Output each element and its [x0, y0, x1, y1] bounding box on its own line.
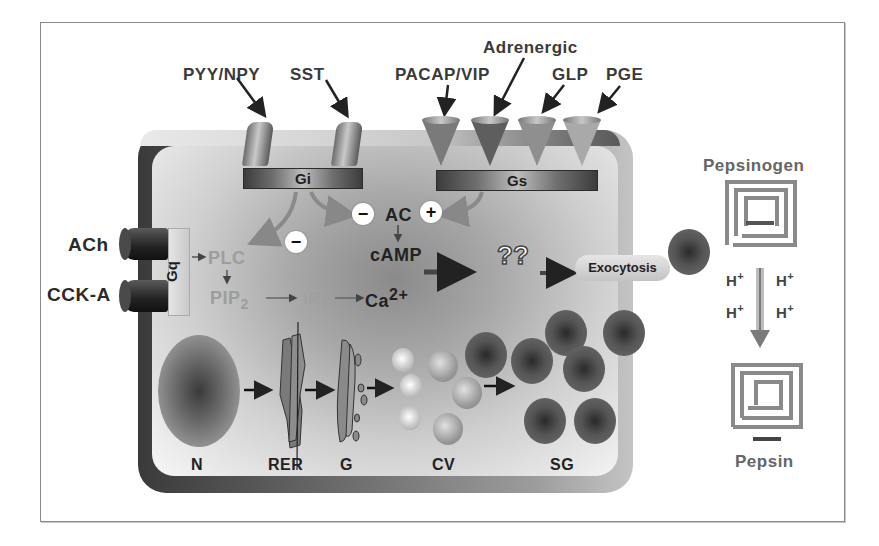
- g-protein-gs: Gs: [436, 170, 598, 191]
- g-protein-gq: Gq: [168, 228, 190, 316]
- arrow-pacap: [445, 85, 448, 110]
- calcium-label: Ca2+: [365, 286, 408, 312]
- arrow-adrenergic: [497, 58, 524, 110]
- golgi-icon: [337, 340, 367, 442]
- proton-label: H+: [776, 270, 794, 289]
- ligand-cck-a: CCK-A: [47, 284, 111, 306]
- secretory-granule-released-icon: [603, 310, 645, 356]
- unknown-mediator-label: ??: [497, 240, 529, 271]
- camp-label: cAMP: [370, 245, 422, 266]
- secretory-granule-icon: [524, 398, 566, 444]
- arrow-sst: [326, 80, 345, 112]
- minus-sign-ac-icon: −: [352, 203, 374, 225]
- proton-label: H+: [726, 270, 744, 289]
- receptor-glp-rim-icon: [518, 116, 556, 124]
- receptor-glp-icon: [518, 120, 556, 166]
- condensing-vacuole-icon: [428, 350, 458, 382]
- label-pepsin: Pepsin: [735, 452, 794, 472]
- proton-label: H+: [726, 302, 744, 321]
- secretory-granule-icon: [563, 346, 605, 392]
- arrow-pge: [602, 86, 620, 108]
- receptor-cck-icon: [124, 280, 168, 312]
- vesicle-icon: [399, 406, 421, 430]
- condensing-vacuole-icon: [433, 413, 463, 445]
- ip3-label: IP3: [303, 289, 327, 311]
- gq-label: Gq: [163, 261, 180, 282]
- arrow-glp: [546, 85, 564, 108]
- nucleus-icon: [158, 335, 240, 447]
- label-cv: CV: [432, 456, 455, 474]
- receptor-pge-rim-icon: [563, 116, 601, 124]
- exocytosis-label: Exocytosis: [575, 255, 670, 281]
- secretory-granule-released-icon: [668, 229, 710, 275]
- minus-sign-plc-icon: −: [285, 231, 307, 253]
- label-pepsinogen: Pepsinogen: [703, 156, 804, 176]
- label-golgi: G: [340, 456, 353, 474]
- condensing-vacuole-icon: [452, 377, 482, 409]
- pepsin-spiral-icon: [733, 365, 801, 427]
- proton-label: H+: [776, 302, 794, 321]
- vesicle-icon: [392, 348, 414, 372]
- secretory-granule-icon: [465, 332, 507, 378]
- pip2-label: PIP2: [210, 288, 249, 312]
- pepsin-bar-icon: [753, 437, 781, 441]
- receptor-pacap-rim-icon: [422, 116, 460, 124]
- ac-label: AC: [385, 205, 412, 226]
- secretory-granule-icon: [574, 398, 616, 444]
- receptor-adrenergic-icon: [471, 120, 509, 166]
- ligand-ach: ACh: [68, 234, 109, 256]
- receptor-pacap-icon: [422, 120, 460, 166]
- plus-sign-ac-icon: +: [420, 201, 442, 223]
- receptor-ach-icon: [124, 228, 168, 260]
- label-sg: SG: [550, 456, 574, 474]
- g-protein-gi: Gi: [243, 168, 363, 189]
- receptor-adrenergic-rim-icon: [471, 116, 509, 124]
- receptor-pge-icon: [563, 120, 601, 166]
- pepsinogen-bar-icon: [746, 221, 774, 225]
- label-nucleus: N: [191, 456, 203, 474]
- secretory-granule-icon: [511, 338, 553, 384]
- pepsinogen-spiral-icon: [727, 182, 795, 245]
- label-rer: RER: [268, 456, 303, 474]
- rer-icon: [280, 322, 305, 470]
- arrow-pyy: [237, 78, 262, 112]
- plc-label: PLC: [208, 248, 246, 269]
- vesicle-icon: [400, 374, 422, 398]
